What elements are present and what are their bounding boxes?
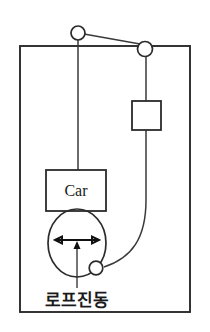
rope-top-span xyxy=(84,34,140,44)
counterweight xyxy=(132,101,161,130)
rope-counterweight-side xyxy=(104,56,146,267)
arrow-head-up xyxy=(74,241,81,249)
diagram-canvas: Car 로프진동 xyxy=(0,0,210,332)
rope-vibration-diagram: Car 로프진동 xyxy=(0,0,210,332)
drive-sheave-pulley xyxy=(71,26,85,40)
compensating-sheave xyxy=(89,261,103,275)
car-label: Car xyxy=(64,182,88,199)
deflector-pulley xyxy=(138,42,153,57)
rope-vibration-label: 로프진동 xyxy=(45,290,109,310)
